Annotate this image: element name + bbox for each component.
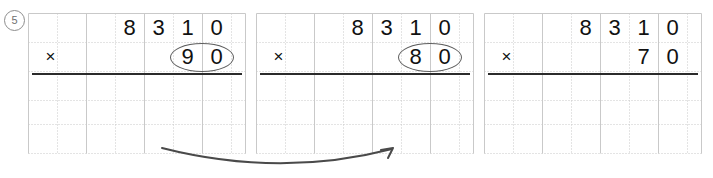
problem-1-multiplier-row: × 9 0 (28, 42, 246, 71)
problem-3-grid: 8 3 1 0 × 7 0 (484, 13, 702, 154)
digit-cell: 3 (372, 13, 401, 42)
answer-rule (32, 73, 242, 75)
problem-2-multiplier-row: × 8 0 (256, 42, 474, 71)
digit-cell: 1 (401, 13, 430, 42)
digit-cell: 8 (401, 42, 430, 71)
digit-cell: 3 (600, 13, 629, 42)
digit-cell: 9 (173, 42, 202, 71)
problem-1-multiplicand-row: 8 3 1 0 (28, 13, 246, 42)
multiply-sign: × (264, 42, 293, 71)
problem-2-multiplicand-row: 8 3 1 0 (256, 13, 474, 42)
answer-rule (260, 73, 470, 75)
answer-rule (488, 73, 698, 75)
digit-cell: 1 (173, 13, 202, 42)
multiply-sign: × (36, 42, 65, 71)
problem-3-multiplicand-row: 8 3 1 0 (484, 13, 702, 42)
digit-cell: 3 (144, 13, 173, 42)
digit-cell: 8 (343, 13, 372, 42)
digit-cell: 0 (430, 13, 459, 42)
digit-cell: 0 (202, 13, 231, 42)
curved-arrow-right-icon (150, 142, 410, 176)
problem-3-multiplier-row: × 7 0 (484, 42, 702, 71)
problem-2-grid: 8 3 1 0 × 8 0 (256, 13, 474, 154)
worksheet-sheet: 5 8 3 1 (0, 0, 713, 178)
digit-cell: 8 (115, 13, 144, 42)
digit-cell: 0 (430, 42, 459, 71)
digit-cell: 7 (629, 42, 658, 71)
multiply-sign: × (492, 42, 521, 71)
digit-cell: 1 (629, 13, 658, 42)
digit-cell: 0 (658, 13, 687, 42)
digit-cell: 0 (202, 42, 231, 71)
item-number-badge: 5 (4, 10, 25, 31)
digit-cell: 0 (658, 42, 687, 71)
problem-1-grid: 8 3 1 0 × 9 0 (28, 13, 246, 154)
digit-cell: 8 (571, 13, 600, 42)
